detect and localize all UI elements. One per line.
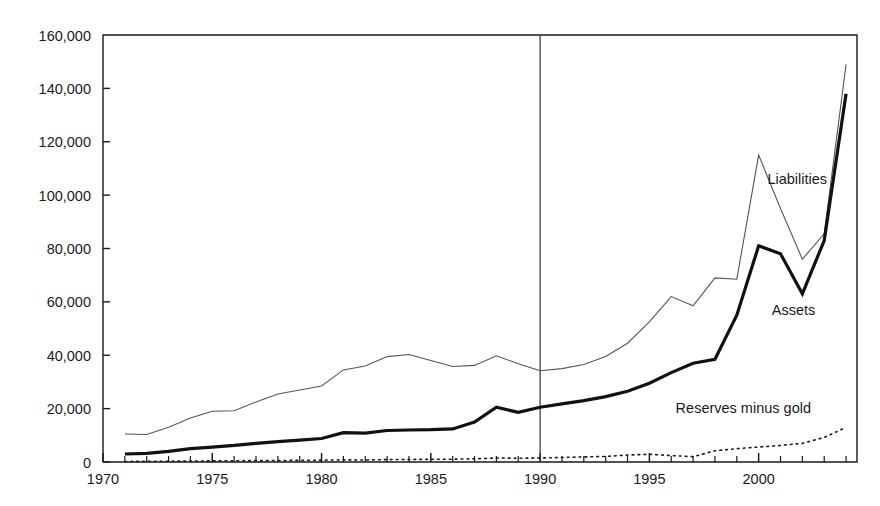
x-tick-label: 1975 (196, 471, 228, 487)
y-tick-label: 140,000 (39, 81, 91, 97)
x-tick-label: 1980 (305, 471, 337, 487)
series-line-liabilities (125, 64, 846, 434)
x-tick-label: 2000 (743, 471, 775, 487)
y-tick-label: 60,000 (47, 294, 91, 310)
x-tick-label: 1995 (633, 471, 665, 487)
annotation-assets: Assets (772, 302, 816, 318)
y-axis-ticks (103, 88, 110, 462)
x-tick-label: 1970 (87, 471, 119, 487)
series-annotations: LiabilitiesAssetsReserves minus gold (676, 171, 827, 415)
chart-container: 020,00040,00060,00080,000100,000120,0001… (0, 0, 880, 506)
y-tick-label: 20,000 (47, 401, 91, 417)
annotation-liabilities: Liabilities (767, 171, 827, 187)
plot-frame (103, 35, 857, 462)
y-tick-label: 100,000 (39, 188, 91, 204)
y-tick-label: 40,000 (47, 348, 91, 364)
x-tick-label: 1990 (524, 471, 556, 487)
y-tick-label: 160,000 (39, 28, 91, 44)
y-tick-label: 120,000 (39, 134, 91, 150)
x-tick-label: 1985 (415, 471, 447, 487)
y-tick-label: 0 (83, 455, 91, 471)
y-axis-labels: 020,00040,00060,00080,000100,000120,0001… (39, 28, 91, 471)
annotation-reserves-minus-gold: Reserves minus gold (676, 400, 811, 416)
y-tick-label: 80,000 (47, 241, 91, 257)
x-axis-labels: 1970197519801985199019952000 (87, 471, 775, 487)
line-chart: 020,00040,00060,00080,000100,000120,0001… (0, 0, 880, 506)
